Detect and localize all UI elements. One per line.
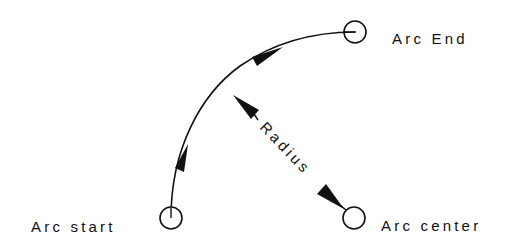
arc-center-label: Arc center	[381, 217, 481, 234]
arc-diagram: Arc End Arc start Arc center Radius	[0, 0, 532, 247]
arc-start-label: Arc start	[31, 218, 116, 235]
arc-center-marker	[343, 207, 365, 229]
radius-label: Radius	[257, 118, 315, 177]
arc-end-label: Arc End	[392, 30, 468, 47]
radius-tail-lower	[340, 205, 346, 210]
radius-tail-upper	[254, 114, 258, 120]
